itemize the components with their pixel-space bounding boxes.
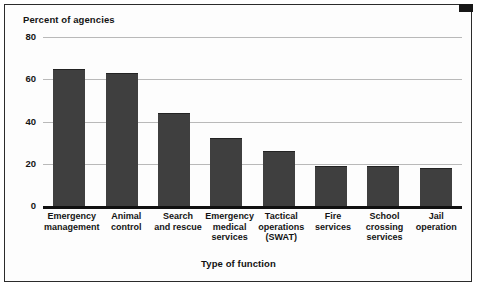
x-tick-label-line: services <box>308 222 358 233</box>
scan-corner-mark <box>459 4 473 12</box>
bar-slot <box>43 38 95 207</box>
x-axis-title: Type of function <box>0 258 477 269</box>
x-tick-label-line: and rescue <box>153 222 203 233</box>
y-tick-label: 20 <box>25 159 36 169</box>
bar-slot <box>148 38 200 207</box>
x-tick-label: Jailoperation <box>410 211 462 243</box>
x-tick-label-line: Animal <box>102 211 152 222</box>
x-tick-label-line: crossing <box>360 222 410 233</box>
bar-slot <box>253 38 305 207</box>
x-tick-label-line: Emergency <box>44 211 100 222</box>
bar <box>53 69 85 207</box>
bar-chart-figure: Percent of agencies 80 60 40 20 0 Emerge… <box>0 0 477 287</box>
bar-slot <box>305 38 357 207</box>
x-tick-label-line: (SWAT) <box>256 232 306 243</box>
bar <box>158 113 190 207</box>
y-tick-label: 80 <box>25 32 36 42</box>
x-tick-label: Animalcontrol <box>101 211 153 243</box>
y-tick-label: 0 <box>31 201 36 211</box>
bar <box>210 138 242 207</box>
x-tick-label-line: Emergency <box>205 211 255 222</box>
bar-slot <box>200 38 252 207</box>
x-tick-label: Searchand rescue <box>152 211 204 243</box>
x-tick-label-line: Fire <box>308 211 358 222</box>
x-tick-label-line: medical <box>205 222 255 233</box>
bar-slot <box>357 38 409 207</box>
plot-area: 80 60 40 20 0 <box>43 38 462 207</box>
x-tick-label-line: control <box>102 222 152 233</box>
x-tick-label-line: Tactical <box>256 211 306 222</box>
bar <box>106 73 138 207</box>
x-tick-label-line: operation <box>411 222 461 233</box>
bar <box>367 166 399 207</box>
x-tick-label-line: School <box>360 211 410 222</box>
x-tick-label: Emergencymedicalservices <box>204 211 256 243</box>
x-tick-label: Schoolcrossingservices <box>359 211 411 243</box>
bar <box>263 151 295 207</box>
y-tick-label: 60 <box>25 75 36 85</box>
x-tick-label-line: operations <box>256 222 306 233</box>
x-tick-label-line: Search <box>153 211 203 222</box>
x-axis-line <box>43 206 462 209</box>
x-axis-tick-labels: EmergencymanagementAnimalcontrolSearchan… <box>43 211 462 243</box>
y-tick-label: 40 <box>25 117 36 127</box>
x-tick-label-line: services <box>205 232 255 243</box>
x-tick-label-line: Jail <box>411 211 461 222</box>
bar <box>315 166 347 207</box>
x-tick-label: Tacticaloperations(SWAT) <box>255 211 307 243</box>
x-tick-label: Fireservices <box>307 211 359 243</box>
y-axis-title: Percent of agencies <box>23 14 115 25</box>
bar <box>420 168 452 207</box>
bar-series <box>43 38 462 207</box>
x-tick-label-line: management <box>44 222 100 233</box>
x-tick-label-line: services <box>360 232 410 243</box>
bar-slot <box>95 38 147 207</box>
bar-slot <box>410 38 462 207</box>
x-tick-label: Emergencymanagement <box>43 211 101 243</box>
